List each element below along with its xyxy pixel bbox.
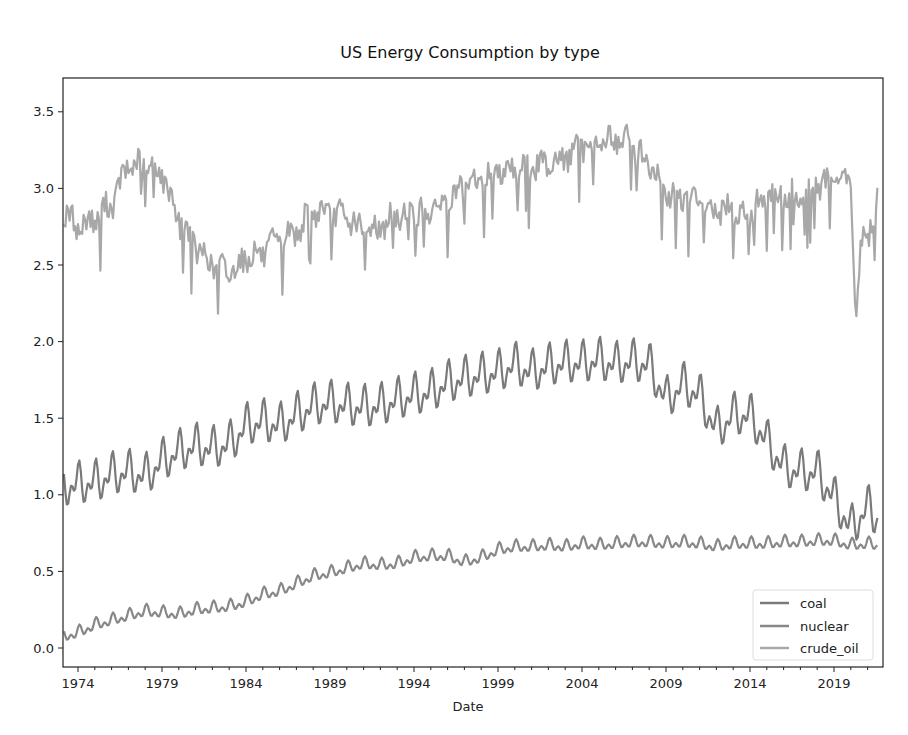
x-tick-label: 2004 xyxy=(565,676,598,691)
y-tick-label: 3.0 xyxy=(33,181,54,196)
y-tick-label: 1.0 xyxy=(33,487,54,502)
x-tick-label: 1994 xyxy=(397,676,430,691)
x-axis: 1974197919841989199419992004200920142019 xyxy=(61,667,867,691)
series-layer xyxy=(64,125,877,640)
legend: coal nuclear crude_oil xyxy=(753,590,873,660)
y-tick-label: 1.5 xyxy=(33,411,54,426)
y-tick-label: 3.5 xyxy=(33,104,54,119)
x-tick-label: 1989 xyxy=(313,676,346,691)
x-tick-label: 2014 xyxy=(733,676,766,691)
x-tick-label: 1974 xyxy=(61,676,94,691)
x-tick-label: 1984 xyxy=(229,676,262,691)
y-axis: 0.00.51.01.52.02.53.03.5 xyxy=(33,104,63,655)
x-tick-label: 2019 xyxy=(817,676,850,691)
x-axis-label: Date xyxy=(452,699,483,714)
x-tick-label: 2009 xyxy=(649,676,682,691)
y-tick-label: 2.0 xyxy=(33,334,54,349)
legend-label-coal: coal xyxy=(800,596,827,611)
chart-title: US Energy Consumption by type xyxy=(340,43,600,62)
y-tick-label: 2.5 xyxy=(33,258,54,273)
legend-label-crude-oil: crude_oil xyxy=(800,641,859,656)
y-tick-label: 0.0 xyxy=(33,641,54,656)
y-tick-label: 0.5 xyxy=(33,564,54,579)
legend-label-nuclear: nuclear xyxy=(800,619,849,634)
plot-frame xyxy=(63,78,883,667)
x-tick-label: 1999 xyxy=(481,676,514,691)
series-line-coal xyxy=(64,337,877,540)
series-line-crude-oil xyxy=(64,125,877,316)
line-chart: US Energy Consumption by type 0.00.51.01… xyxy=(0,0,908,735)
plot-area xyxy=(63,78,883,667)
x-tick-label: 1979 xyxy=(145,676,178,691)
